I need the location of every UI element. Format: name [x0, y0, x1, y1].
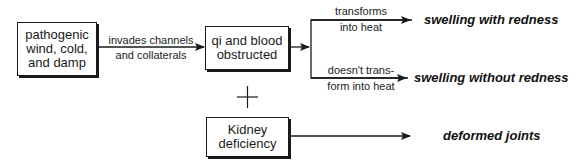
outcome-swelling-with-redness: swelling with redness: [424, 12, 558, 27]
node-cause-line: wind, cold,: [25, 42, 89, 56]
node-kidney: Kidney deficiency: [206, 117, 289, 157]
node-obstruction: qi and blood obstructed: [205, 26, 289, 70]
edge-label-not-transforms: doesn't trans- form into heat: [316, 64, 406, 93]
node-cause: pathogenic wind, cold, and damp: [17, 22, 97, 76]
outcome-deformed-joints: deformed joints: [443, 128, 541, 143]
node-cause-line: and damp: [25, 56, 89, 70]
node-kidney-line: deficiency: [219, 137, 277, 151]
outcome-swelling-without-redness: swelling without redness: [414, 70, 569, 85]
node-kidney-line: Kidney: [219, 123, 277, 137]
node-obstruction-line: qi and blood: [212, 34, 283, 48]
node-cause-line: pathogenic: [25, 28, 89, 42]
edge-label-transforms: transforms into heat: [316, 5, 406, 34]
node-obstruction-line: obstructed: [212, 48, 283, 62]
edge-label-invades: invades channels and collaterals: [101, 34, 201, 62]
